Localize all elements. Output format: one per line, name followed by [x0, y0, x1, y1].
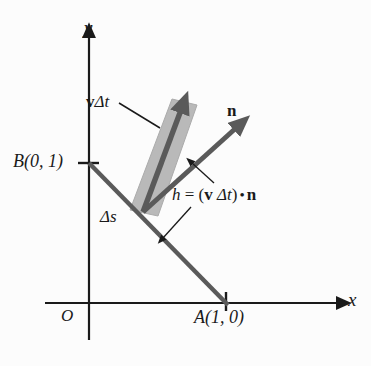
formula-h: h — [172, 185, 181, 204]
vdt-leader-line — [119, 103, 160, 128]
h-leader-upper — [192, 163, 214, 183]
point-b-label: B(0, 1) — [13, 152, 63, 170]
formula-dot-operator: • — [237, 187, 246, 203]
h-leader-lower — [163, 207, 191, 238]
x-axis-label: x — [348, 290, 356, 309]
diagram-canvas — [0, 0, 371, 366]
formula-equals: = — [185, 185, 195, 204]
math-diagram-figure: y x O B(0, 1) A(1, 0) vΔt n Δs h = (v Δt… — [0, 0, 371, 366]
y-axis-label: y — [84, 18, 92, 37]
normal-vector-label: n — [227, 102, 236, 119]
formula-n: n — [247, 185, 256, 204]
vdt-bold-v: v — [86, 92, 95, 111]
velocity-displacement-label: vΔt — [86, 93, 109, 110]
height-formula-label: h = (v Δt)•n — [172, 186, 256, 203]
origin-label: O — [61, 307, 73, 324]
formula-v: v — [204, 185, 213, 204]
formula-delta-t: Δt — [217, 185, 232, 204]
vdt-delta-t: Δt — [95, 92, 110, 111]
point-a-label: A(1, 0) — [194, 308, 244, 326]
segment-length-label: Δs — [100, 208, 117, 225]
